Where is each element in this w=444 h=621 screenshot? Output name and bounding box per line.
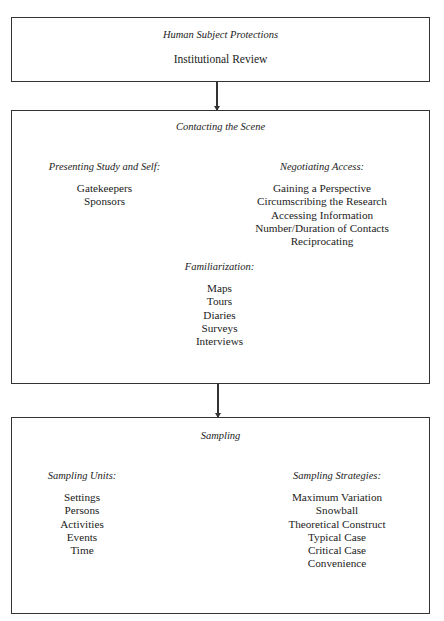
negotiating-list: Gaining a Perspective Circumscribing the… xyxy=(237,182,407,248)
list-item: Tours xyxy=(152,295,287,308)
list-item: Time xyxy=(42,544,122,557)
list-item: Activities xyxy=(42,518,122,531)
list-item: Gaining a Perspective xyxy=(237,182,407,195)
familiarization-list: Maps Tours Diaries Surveys Interviews xyxy=(152,282,287,348)
presenting-list: Gatekeepers Sponsors xyxy=(42,182,167,209)
protections-item: Institutional Review xyxy=(12,53,429,65)
presenting-group: Presenting Study and Self: Gatekeepers S… xyxy=(42,161,167,209)
list-item: Theoretical Construct xyxy=(272,518,402,531)
units-group: Sampling Units: Settings Persons Activit… xyxy=(42,470,122,557)
list-item: Snowball xyxy=(272,504,402,517)
list-item: Surveys xyxy=(152,322,287,335)
protections-title: Human Subject Protections xyxy=(12,29,429,40)
list-item: Reciprocating xyxy=(237,235,407,248)
list-item: Interviews xyxy=(152,335,287,348)
sampling-box: Sampling Sampling Units: Settings Person… xyxy=(11,417,430,614)
list-item: Maximum Variation xyxy=(272,491,402,504)
list-item: Diaries xyxy=(152,309,287,322)
list-item: Convenience xyxy=(272,557,402,570)
list-item: Sponsors xyxy=(42,195,167,208)
sampling-title: Sampling xyxy=(12,430,429,441)
arrow-down-icon xyxy=(216,82,218,110)
list-item: Circumscribing the Research xyxy=(237,195,407,208)
familiarization-group: Familiarization: Maps Tours Diaries Surv… xyxy=(152,261,287,348)
strategies-heading: Sampling Strategies: xyxy=(272,470,402,481)
list-item: Gatekeepers xyxy=(42,182,167,195)
arrow-down-icon xyxy=(217,384,219,417)
strategies-group: Sampling Strategies: Maximum Variation S… xyxy=(272,470,402,571)
negotiating-heading: Negotiating Access: xyxy=(237,161,407,172)
list-item: Number/Duration of Contacts xyxy=(237,222,407,235)
presenting-heading: Presenting Study and Self: xyxy=(42,161,167,172)
units-list: Settings Persons Activities Events Time xyxy=(42,491,122,557)
units-heading: Sampling Units: xyxy=(42,470,122,481)
list-item: Critical Case xyxy=(272,544,402,557)
list-item: Persons xyxy=(42,504,122,517)
list-item: Accessing Information xyxy=(237,209,407,222)
familiarization-heading: Familiarization: xyxy=(152,261,287,272)
contacting-box: Contacting the Scene Presenting Study an… xyxy=(11,110,430,384)
strategies-list: Maximum Variation Snowball Theoretical C… xyxy=(272,491,402,571)
list-item: Settings xyxy=(42,491,122,504)
list-item: Typical Case xyxy=(272,531,402,544)
negotiating-group: Negotiating Access: Gaining a Perspectiv… xyxy=(237,161,407,248)
protections-box: Human Subject Protections Institutional … xyxy=(11,17,430,82)
list-item: Maps xyxy=(152,282,287,295)
contacting-title: Contacting the Scene xyxy=(12,121,429,132)
list-item: Events xyxy=(42,531,122,544)
